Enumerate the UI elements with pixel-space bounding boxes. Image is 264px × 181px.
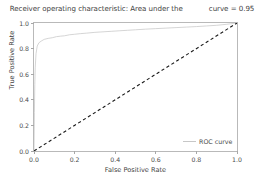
chart-title-auc: curve = 0.95 — [209, 4, 255, 13]
plot-canvas — [34, 23, 237, 151]
x-tick-mark — [115, 151, 116, 154]
x-tick-mark — [34, 151, 35, 154]
x-tick-label: 0.6 — [151, 156, 161, 163]
x-tick-mark — [155, 151, 156, 154]
y-tick-label: 0.8 — [19, 45, 29, 52]
x-tick-mark — [196, 151, 197, 154]
x-tick-label: 0.4 — [110, 156, 120, 163]
chance-baseline-line — [34, 23, 237, 151]
x-tick-label: 0.2 — [70, 156, 80, 163]
y-tick-label: 0.6 — [19, 71, 29, 78]
y-tick-label: 0.2 — [19, 122, 29, 129]
plot-area: 0.00.20.40.60.81.0 0.00.20.40.60.81.0 — [33, 22, 238, 152]
y-tick-label: 1.0 — [19, 20, 29, 27]
y-tick-label: 0.0 — [19, 148, 29, 155]
roc-chart-figure: Receiver operating characteristic: Area … — [0, 0, 264, 181]
y-tick-mark — [31, 48, 34, 49]
x-tick-label: 0.8 — [191, 156, 201, 163]
y-tick-mark — [31, 99, 34, 100]
x-tick-label: 1.0 — [232, 156, 242, 163]
x-tick-mark — [237, 151, 238, 154]
y-axis-label: True Positive Rate — [8, 15, 16, 105]
y-tick-label: 0.4 — [19, 96, 29, 103]
x-tick-label: 0.0 — [29, 156, 39, 163]
x-axis-label: False Positive Rate — [33, 166, 238, 174]
legend-item-label: ROC curve — [199, 138, 232, 145]
y-tick-mark — [31, 23, 34, 24]
chart-title: Receiver operating characteristic: Area … — [0, 2, 264, 14]
chart-title-main: Receiver operating characteristic: Area … — [10, 4, 183, 13]
y-tick-mark — [31, 74, 34, 75]
y-tick-mark — [31, 125, 34, 126]
legend-line-swatch — [183, 141, 196, 142]
chart-legend: ROC curve — [181, 137, 234, 146]
x-tick-mark — [74, 151, 75, 154]
